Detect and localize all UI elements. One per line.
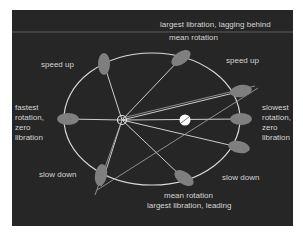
label-top-line1: largest libration, lagging behind bbox=[160, 20, 271, 30]
label-slowest-2: rotation, bbox=[262, 113, 291, 123]
moon-bodies bbox=[57, 47, 253, 189]
body-fastest bbox=[57, 113, 79, 125]
label-fastest-2: rotation, bbox=[15, 113, 44, 123]
label-bottom-line2: largest libration, leading bbox=[147, 201, 232, 211]
orbit-diagram bbox=[0, 0, 303, 235]
body-speed-up-left bbox=[98, 53, 110, 75]
label-slow-down-right: slow down bbox=[222, 173, 259, 183]
label-speed-up-left: speed up bbox=[41, 60, 74, 70]
radius-lines bbox=[68, 58, 242, 186]
label-top-line2: mean rotation bbox=[169, 33, 218, 43]
label-bottom-line1: mean rotation bbox=[164, 191, 213, 201]
body-top bbox=[169, 47, 194, 69]
label-fastest-1: fastest bbox=[15, 103, 39, 113]
label-slowest-1: slowest bbox=[262, 103, 289, 113]
label-fastest-3: zero bbox=[15, 123, 31, 133]
label-speed-up-right: speed up bbox=[226, 56, 259, 66]
label-fastest-4: libration bbox=[15, 133, 43, 143]
body-slow-down-left bbox=[93, 163, 109, 187]
label-slowest-4: libration bbox=[262, 133, 290, 143]
label-slow-down-left: slow down bbox=[39, 170, 76, 180]
body-speed-up-right bbox=[229, 83, 253, 99]
body-slow-down-right bbox=[227, 139, 251, 155]
body-slowest bbox=[230, 113, 252, 125]
label-slowest-3: zero bbox=[262, 123, 278, 133]
